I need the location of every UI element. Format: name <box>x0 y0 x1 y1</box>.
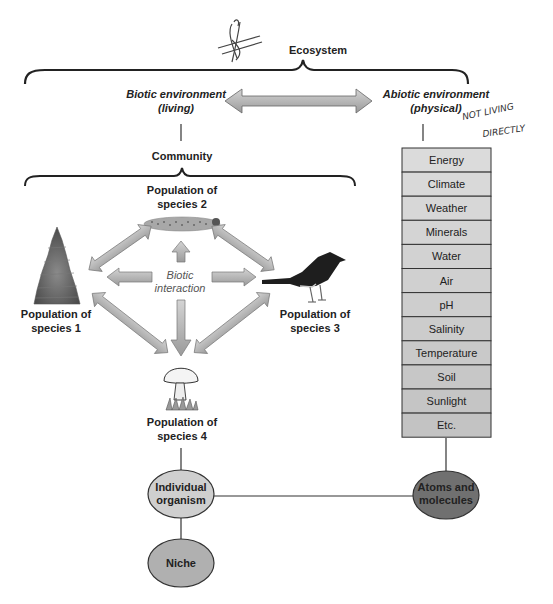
arrow-species2-species3-icon <box>207 219 280 277</box>
abiotic-factor-row: Weather <box>402 196 491 220</box>
arrow-up-species2-icon <box>172 241 190 262</box>
ecosystem-label: Ecosystem <box>289 44 347 56</box>
biotic-environment-label: Biotic environment (living) <box>126 88 227 114</box>
biotic-interaction-label: Biotic interaction <box>155 269 206 294</box>
svg-text:Abiotic environment: Abiotic environment <box>382 88 491 100</box>
arrow-species1-species4-icon <box>87 286 174 359</box>
svg-text:(physical): (physical) <box>410 102 462 114</box>
biotic-abiotic-double-arrow-icon <box>225 89 372 113</box>
svg-text:Individual: Individual <box>155 481 206 493</box>
species-3-label: Population of species 3 <box>280 308 351 334</box>
svg-text:molecules: molecules <box>419 494 473 506</box>
caterpillar-icon <box>144 217 220 231</box>
abiotic-factor-label: Salinity <box>429 323 465 335</box>
arrow-down-species4-icon <box>171 300 191 356</box>
species-2-label: Population of species 2 <box>147 184 218 210</box>
species-1-label: Population of species 1 <box>21 308 92 334</box>
svg-text:Niche: Niche <box>166 557 196 569</box>
abiotic-factor-label: Air <box>440 275 454 287</box>
abiotic-factor-label: Energy <box>429 154 464 166</box>
species-4-label: Population of species 4 <box>147 416 218 442</box>
svg-text:DIRECTLY: DIRECTLY <box>482 123 527 139</box>
arrow-right-species3-icon <box>212 268 256 286</box>
svg-text:Biotic environment: Biotic environment <box>126 88 227 100</box>
mushroom-icon <box>164 368 198 410</box>
ecosystem-diagram: Ecosystem Biotic environment (living) Ab… <box>0 0 553 604</box>
abiotic-factor-label: Soil <box>437 371 455 383</box>
handwritten-note: NOT LIVING DIRECTLY <box>461 101 527 139</box>
abiotic-factor-label: Etc. <box>437 419 456 431</box>
arrow-species3-species4-icon <box>189 286 276 359</box>
abiotic-factor-label: Temperature <box>416 347 478 359</box>
svg-text:NOT LIVING: NOT LIVING <box>461 101 514 122</box>
abiotic-factors-table: EnergyClimateWeatherMineralsWaterAirpHSa… <box>402 148 491 437</box>
niche-node: Niche <box>148 539 214 587</box>
ecosystem-brace <box>25 60 468 84</box>
svg-text:interaction: interaction <box>155 282 206 294</box>
svg-text:Atoms and: Atoms and <box>418 481 475 493</box>
tree-icon <box>34 227 80 304</box>
svg-text:species 2: species 2 <box>157 198 207 210</box>
abiotic-factor-row: Salinity <box>402 317 491 341</box>
individual-organism-node: Individual organism <box>148 470 214 518</box>
abiotic-factor-row: Minerals <box>402 220 491 244</box>
abiotic-factor-label: pH <box>439 299 453 311</box>
abiotic-factor-label: Weather <box>426 202 468 214</box>
svg-text:Population of: Population of <box>147 416 218 428</box>
abiotic-factor-label: Minerals <box>426 226 468 238</box>
abiotic-factor-label: Climate <box>428 178 465 190</box>
abiotic-factor-row: Air <box>402 269 491 293</box>
svg-text:species 1: species 1 <box>31 322 81 334</box>
svg-text:(living): (living) <box>158 102 194 114</box>
bird-icon <box>262 252 346 302</box>
community-label: Community <box>152 150 213 162</box>
scribble-mark <box>218 20 262 62</box>
abiotic-factor-label: Sunlight <box>427 395 467 407</box>
abiotic-factor-row: Water <box>402 244 491 268</box>
svg-text:species 3: species 3 <box>290 322 340 334</box>
abiotic-factor-label: Water <box>432 250 461 262</box>
abiotic-factor-row: Climate <box>402 172 491 196</box>
arrow-left-species1-icon <box>107 268 152 286</box>
svg-text:Biotic: Biotic <box>167 269 194 281</box>
abiotic-factor-row: Temperature <box>402 341 491 365</box>
abiotic-factor-row: Sunlight <box>402 389 491 413</box>
atoms-molecules-node: Atoms and molecules <box>413 471 479 519</box>
svg-text:species 4: species 4 <box>157 430 207 442</box>
svg-text:organism: organism <box>156 494 206 506</box>
abiotic-factor-row: Energy <box>402 148 491 172</box>
arrow-species1-species2-icon <box>84 219 157 277</box>
svg-text:Population of: Population of <box>147 184 218 196</box>
abiotic-factor-row: pH <box>402 293 491 317</box>
svg-text:Population of: Population of <box>280 308 351 320</box>
abiotic-factor-row: Soil <box>402 365 491 389</box>
svg-text:Population of: Population of <box>21 308 92 320</box>
abiotic-factor-row: Etc. <box>402 413 491 437</box>
